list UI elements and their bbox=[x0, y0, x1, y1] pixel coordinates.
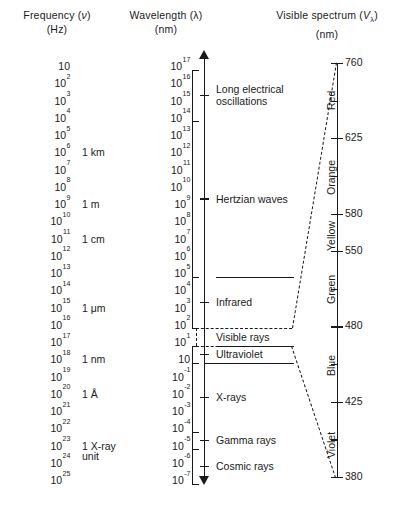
axis-arrow-down-icon bbox=[199, 476, 209, 485]
visible-tick-2 bbox=[331, 138, 343, 139]
frequency-value-11: 1012 bbox=[8, 251, 70, 262]
visible-spectrum-column-header: Visible spectrum (Vλ) (nm) bbox=[258, 8, 396, 41]
frequency-value-15: 1016 bbox=[8, 320, 70, 331]
frequency-value-22: 1023 bbox=[8, 441, 70, 452]
unit-marker-4: 1 nm bbox=[82, 354, 142, 365]
visible-header-unit: (nm) bbox=[258, 27, 396, 41]
frequency-value-23: 1024 bbox=[8, 458, 70, 469]
band-bracket-7 bbox=[192, 449, 193, 484]
wavelength-value-24: 10-7 bbox=[138, 475, 190, 486]
band-bracket-top-7 bbox=[192, 449, 199, 450]
frequency-value-14: 1015 bbox=[8, 303, 70, 314]
wavelength-value-13: 104 bbox=[138, 285, 190, 296]
wavelength-value-11: 106 bbox=[138, 251, 190, 262]
wavelength-value-7: 1010 bbox=[138, 182, 190, 193]
frequency-value-21: 1022 bbox=[8, 423, 70, 434]
visible-tick-label-425: 425 bbox=[345, 396, 363, 407]
band-label-2: Infrared bbox=[216, 296, 252, 309]
band-bracket-2 bbox=[192, 277, 193, 329]
wavelength-value-15: 102 bbox=[138, 320, 190, 331]
visible-color-label-orange: Orange bbox=[325, 159, 337, 194]
wavelength-header-unit: (nm) bbox=[112, 22, 220, 36]
frequency-header-line1: Frequency (ν) bbox=[23, 9, 90, 21]
frequency-value-1: 102 bbox=[8, 78, 70, 89]
frequency-value-3: 104 bbox=[8, 113, 70, 124]
frequency-header-unit: (Hz) bbox=[2, 22, 112, 36]
wavelength-header-line1: Wavelength (λ) bbox=[129, 9, 202, 21]
wavelength-value-17: 10 bbox=[138, 354, 190, 365]
visible-band-bottom-dashed bbox=[196, 346, 292, 347]
wavelength-value-23: 10-6 bbox=[138, 458, 190, 469]
frequency-value-20: 1021 bbox=[8, 406, 70, 417]
frequency-value-17: 1018 bbox=[8, 354, 70, 365]
band-bracket-0 bbox=[192, 70, 193, 122]
visible-tick-label-625: 625 bbox=[345, 132, 363, 143]
band-label-4: Ultraviolet bbox=[216, 348, 263, 361]
band-pointer-2 bbox=[200, 302, 209, 303]
unit-marker-6: 1 X-rayunit bbox=[82, 441, 142, 461]
wavelength-value-6: 1011 bbox=[138, 165, 190, 176]
visible-tick-11 bbox=[331, 477, 343, 478]
wavelength-value-4: 1013 bbox=[138, 130, 190, 141]
band-pointer-4 bbox=[200, 354, 209, 355]
visible-tick-label-550: 550 bbox=[345, 245, 363, 256]
frequency-value-16: 1017 bbox=[8, 337, 70, 348]
frequency-value-8: 109 bbox=[8, 199, 70, 210]
wavelength-value-16: 101 bbox=[138, 337, 190, 348]
unit-marker-3: 1 μm bbox=[82, 303, 142, 314]
wavelength-value-3: 1014 bbox=[138, 113, 190, 124]
band-bracket-top-1 bbox=[192, 121, 199, 122]
band-separator-2 bbox=[204, 363, 294, 364]
wavelength-column-header: Wavelength (λ) (nm) bbox=[112, 8, 220, 36]
visible-band-left-cap bbox=[196, 328, 197, 345]
wavelength-value-19: 10-2 bbox=[138, 389, 190, 400]
frequency-column-header: Frequency (ν) (Hz) bbox=[2, 8, 112, 36]
visible-band-top-dashed bbox=[196, 328, 292, 329]
unit-marker-5: 1 Å bbox=[82, 389, 142, 400]
frequency-value-5: 106 bbox=[8, 147, 70, 158]
frequency-value-10: 1011 bbox=[8, 234, 70, 245]
band-pointer-0 bbox=[200, 95, 209, 96]
visible-tick-label-760: 760 bbox=[345, 57, 363, 68]
wavelength-value-2: 1015 bbox=[138, 96, 190, 107]
frequency-value-4: 105 bbox=[8, 130, 70, 141]
frequency-value-7: 108 bbox=[8, 182, 70, 193]
frequency-value-6: 107 bbox=[8, 165, 70, 176]
visible-tick-4 bbox=[331, 214, 343, 215]
visible-tick-7 bbox=[331, 326, 343, 327]
frequency-value-2: 103 bbox=[8, 96, 70, 107]
band-pointer-5 bbox=[200, 397, 209, 398]
band-label-1: Hertzian waves bbox=[216, 193, 288, 206]
main-spectrum-axis-line bbox=[204, 58, 205, 476]
band-label-6: Gamma rays bbox=[216, 434, 276, 447]
visible-tick-9 bbox=[331, 402, 343, 403]
wavelength-value-9: 108 bbox=[138, 216, 190, 227]
frequency-value-24: 1025 bbox=[8, 475, 70, 486]
band-bracket-4 bbox=[192, 346, 193, 363]
band-bracket-top-6 bbox=[192, 432, 199, 433]
frequency-value-9: 1010 bbox=[8, 216, 70, 227]
unit-marker-1: 1 m bbox=[82, 199, 142, 210]
band-label-7: Cosmic rays bbox=[216, 460, 274, 473]
unit-marker-2: 1 cm bbox=[82, 234, 142, 245]
band-pointer-7 bbox=[200, 466, 209, 467]
wavelength-value-22: 10-5 bbox=[138, 441, 190, 452]
band-pointer-6 bbox=[200, 440, 209, 441]
band-separator-0 bbox=[216, 277, 294, 278]
wavelength-value-21: 10-4 bbox=[138, 423, 190, 434]
visible-tick-0 bbox=[331, 63, 343, 64]
visible-header-line1: Visible spectrum (Vλ) bbox=[276, 9, 378, 21]
visible-color-label-green: Green bbox=[325, 275, 337, 304]
wavelength-value-20: 10-3 bbox=[138, 406, 190, 417]
band-label-0: Long electrical oscillations bbox=[216, 83, 284, 108]
band-bracket-top-5 bbox=[192, 363, 199, 364]
frequency-value-19: 1020 bbox=[8, 389, 70, 400]
unit-marker-0: 1 km bbox=[82, 147, 142, 158]
em-spectrum-chart: Frequency (ν) (Hz) Wavelength (λ) (nm) V… bbox=[0, 0, 396, 508]
axis-arrow-up-icon bbox=[199, 50, 209, 59]
visible-color-label-yellow: Yellow bbox=[325, 221, 337, 251]
wavelength-value-10: 107 bbox=[138, 234, 190, 245]
band-bracket-5 bbox=[192, 363, 193, 432]
wavelength-value-0: 1017 bbox=[138, 61, 190, 72]
band-pointer-1 bbox=[200, 198, 209, 199]
